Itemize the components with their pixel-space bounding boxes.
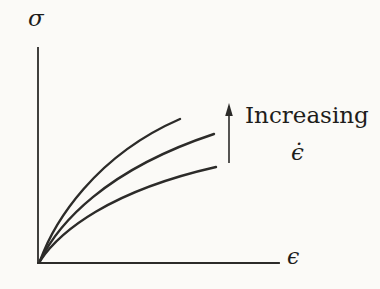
annotation-strain-rate-symbol: ϵ̇ (291, 141, 304, 164)
y-axis-label-sigma: σ (28, 7, 44, 30)
annotation-increasing-text: Increasing (245, 104, 369, 127)
up-arrow-icon (225, 103, 233, 116)
x-axis-label-epsilon: ϵ (287, 246, 299, 268)
stress-strain-rate-figure: σ ϵ Increasing ϵ̇ (0, 0, 380, 289)
curve-high-strain-rate (40, 119, 180, 261)
curve-medium-strain-rate (40, 134, 214, 261)
curve-low-strain-rate (40, 167, 216, 261)
plot-canvas (0, 0, 380, 289)
